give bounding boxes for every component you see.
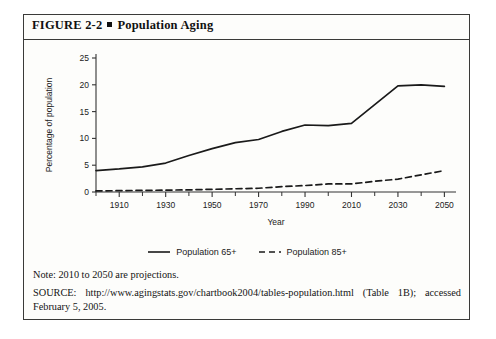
figure-notes: Note: 2010 to 2050 are projections. SOUR… bbox=[33, 268, 461, 315]
square-bullet-icon bbox=[107, 22, 112, 27]
figure-container: FIGURE 2-2Population Aging 0510152025Per… bbox=[23, 14, 470, 320]
source-text: SOURCE: http://www.agingstats.gov/chartb… bbox=[33, 286, 461, 315]
legend-line-solid-icon bbox=[148, 247, 170, 257]
figure-title-bar: FIGURE 2-2Population Aging bbox=[24, 15, 469, 40]
line-chart: 0510152025Percentage of population191019… bbox=[24, 40, 468, 255]
y-tick-label-5: 5 bbox=[84, 160, 89, 170]
x-tick-label-1930: 1930 bbox=[156, 200, 175, 210]
y-tick-label-25: 25 bbox=[80, 53, 90, 63]
figure-title-text: Population Aging bbox=[117, 18, 213, 32]
chart-legend: Population 65+ Population 85+ bbox=[24, 247, 471, 257]
y-axis-title: Percentage of population bbox=[44, 77, 54, 172]
y-tick-label-0: 0 bbox=[84, 187, 89, 197]
x-tick-label-1910: 1910 bbox=[110, 200, 129, 210]
x-tick-label-2030: 2030 bbox=[388, 200, 407, 210]
x-tick-label-2050: 2050 bbox=[435, 200, 454, 210]
x-tick-label-2010: 2010 bbox=[342, 200, 361, 210]
x-tick-label-1970: 1970 bbox=[249, 200, 268, 210]
series-line-population-85 bbox=[96, 171, 444, 191]
note-text: Note: 2010 to 2050 are projections. bbox=[33, 268, 461, 283]
legend-item-85plus: Population 85+ bbox=[259, 247, 347, 257]
legend-item-65plus: Population 65+ bbox=[148, 247, 236, 257]
x-tick-label-1950: 1950 bbox=[203, 200, 222, 210]
y-tick-label-15: 15 bbox=[80, 107, 90, 117]
chart-plot-area: 0510152025Percentage of population191019… bbox=[24, 40, 468, 255]
legend-label-85plus: Population 85+ bbox=[287, 247, 347, 257]
legend-label-65plus: Population 65+ bbox=[176, 247, 236, 257]
figure-number: FIGURE 2-2 bbox=[32, 18, 102, 32]
y-tick-label-20: 20 bbox=[80, 80, 90, 90]
x-axis-title: Year bbox=[267, 217, 284, 227]
series-line-population-65 bbox=[96, 85, 444, 171]
page-title: FIGURE 2-2Population Aging bbox=[32, 18, 213, 33]
y-tick-label-10: 10 bbox=[80, 133, 90, 143]
legend-line-dashed-icon bbox=[259, 247, 281, 257]
x-tick-label-1990: 1990 bbox=[296, 200, 315, 210]
